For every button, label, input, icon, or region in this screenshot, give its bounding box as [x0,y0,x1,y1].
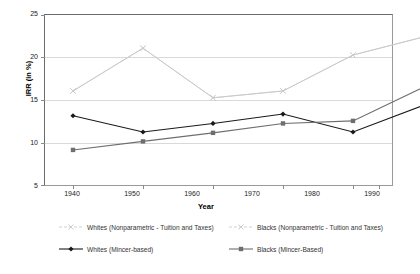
chart-legend: Whites (Nonparametric - Tuition and Taxe… [0,222,420,270]
data-point-marker [71,148,75,152]
series-line [73,37,420,98]
legend-entry-whites-mincer: Whites (Mincer-based) [58,244,153,254]
data-point-marker [350,52,355,57]
irr-line-chart: IRR (in %) 25 20 15 10 5 1940 1950 1960 … [0,0,420,274]
x-tick-label: 1990 [352,190,392,197]
legend-key-x-icon [58,222,84,232]
legend-entry-blacks-nonparametric: Blacks (Nonparametric - Tuition and Taxe… [228,222,383,232]
data-point-marker [281,121,285,125]
x-tick-label: 1950 [112,190,152,197]
legend-label: Whites (Nonparametric - Tuition and Taxe… [87,224,214,231]
legend-key-x-icon [228,222,254,232]
x-tick-label: 1940 [52,190,92,197]
series-1 [70,34,420,100]
x-tick-label: 1970 [232,190,272,197]
data-point-marker [70,113,75,118]
data-point-marker [68,246,73,251]
legend-entry-whites-nonparametric: Whites (Nonparametric - Tuition and Taxe… [58,222,214,232]
legend-label: Whites (Mincer-based) [87,246,153,253]
x-tick-label: 1980 [292,190,332,197]
x-axis-title: Year [198,202,214,211]
legend-label: Blacks (Mincer-Based) [257,246,323,253]
series-0 [70,34,420,100]
data-point-marker [211,131,215,135]
data-point-marker [239,247,243,251]
data-point-marker [141,139,145,143]
data-point-marker [140,129,145,134]
data-point-marker [351,119,355,123]
x-tick-label: 1960 [172,190,212,197]
data-point-marker [280,111,285,116]
legend-key-diamond-icon [58,244,84,254]
data-point-marker [140,46,145,51]
series-2 [70,103,420,135]
data-point-marker [70,88,75,93]
series-line [73,37,420,98]
data-point-marker [210,121,215,126]
legend-label: Blacks (Nonparametric - Tuition and Taxe… [257,224,383,231]
legend-entry-blacks-mincer: Blacks (Mincer-Based) [228,244,323,254]
data-point-marker [350,129,355,134]
legend-key-square-icon [228,244,254,254]
